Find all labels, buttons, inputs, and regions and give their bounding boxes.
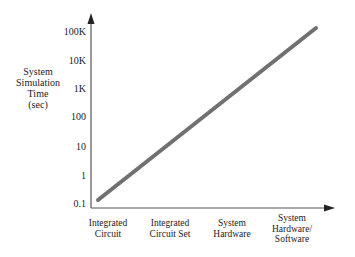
y-tick-0-1: 0.1	[46, 199, 86, 209]
y-tick-10k: 10K	[46, 56, 86, 66]
y-tick-1: 1	[46, 171, 86, 181]
x-tick-line: Circuit	[73, 229, 143, 240]
x-tick-integrated-circuit: Integrated Circuit	[73, 218, 143, 239]
y-axis-label-line: Simulation	[8, 77, 68, 88]
y-tick-100k: 100K	[46, 27, 86, 37]
data-line	[98, 28, 316, 200]
x-tick-line: Integrated	[135, 218, 205, 229]
x-tick-line: Integrated	[73, 218, 143, 229]
x-tick-line: System	[257, 213, 327, 224]
x-tick-line: Circuit Set	[135, 229, 205, 240]
y-axis-label-line: (sec)	[8, 99, 68, 110]
y-axis-label-line: Time	[8, 88, 68, 99]
x-axis-arrow-icon	[324, 205, 335, 212]
y-axis-arrow-icon	[88, 13, 95, 24]
y-tick-10: 10	[46, 142, 86, 152]
y-axis-label: System Simulation Time (sec)	[8, 66, 68, 110]
x-tick-integrated-circuit-set: Integrated Circuit Set	[135, 218, 205, 239]
x-tick-line: Software	[257, 234, 327, 245]
x-tick-system-hardware-software: System Hardware/ Software	[257, 213, 327, 245]
y-tick-100: 100	[46, 112, 86, 122]
y-axis-label-line: System	[8, 66, 68, 77]
x-tick-line: Hardware/	[257, 224, 327, 235]
